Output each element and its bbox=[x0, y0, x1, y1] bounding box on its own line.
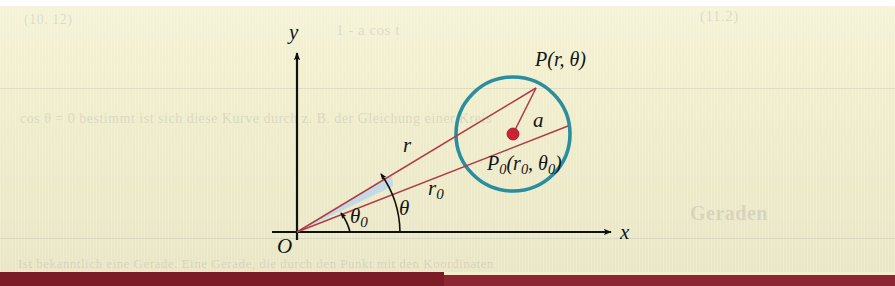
p0-mid: , θ bbox=[528, 152, 548, 174]
angle-theta-label: θ bbox=[399, 196, 409, 221]
polar-diagram-svg bbox=[0, 0, 895, 286]
figure-root: (10. 12) 1 - a cos t (11.2) cos θ = 0 be… bbox=[0, 0, 895, 286]
p0-open: (r bbox=[506, 152, 520, 174]
y-axis-label: y bbox=[289, 20, 298, 45]
angle-theta0-label: θ0 bbox=[350, 204, 368, 231]
p0-arg1-sub: 0 bbox=[521, 161, 528, 177]
segment-a-label: a bbox=[533, 108, 544, 133]
p0-close: ) bbox=[555, 152, 562, 174]
segment-r-label: r bbox=[403, 133, 411, 158]
angle-arc-theta0 bbox=[341, 213, 350, 232]
theta0-prefix: θ bbox=[350, 204, 360, 228]
origin-label: O bbox=[277, 234, 292, 259]
point-p0-label: P0(r0, θ0) bbox=[487, 152, 562, 178]
x-axis-label: x bbox=[620, 220, 629, 245]
point-p-label: P(r, θ) bbox=[535, 48, 586, 71]
r0-prefix: r bbox=[428, 176, 436, 200]
bottom-bar-notch-lower bbox=[444, 275, 895, 286]
p0-prefix: P bbox=[487, 152, 499, 174]
r0-sub: 0 bbox=[436, 186, 444, 202]
point-p0-dot bbox=[507, 128, 519, 140]
theta0-sub: 0 bbox=[360, 214, 368, 230]
segment-r0-label: r0 bbox=[428, 176, 444, 203]
